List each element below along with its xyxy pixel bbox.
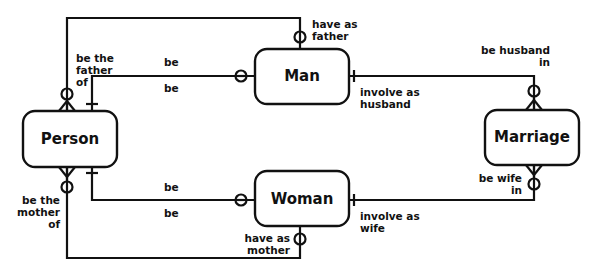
marriage-wife-crowsfoot-icon <box>526 165 542 190</box>
have-as-mother-label-line2: mother <box>247 244 291 256</box>
have-as-father-label-line2: father <box>312 30 349 42</box>
have-as-father-label-line1: have as <box>312 18 358 30</box>
entity-marriage[interactable]: Marriage <box>485 110 579 165</box>
involve-as-wife-label-line1: involve as <box>360 210 420 222</box>
man-father-optional-icon <box>295 31 306 43</box>
mother-of-label-line3: of <box>48 218 60 230</box>
person-father-crowsfoot-icon <box>59 88 75 111</box>
entity-person-label: Person <box>41 130 99 148</box>
father-of-label-line3: of <box>76 76 88 88</box>
er-diagram: Person Man Woman Marriage be the father … <box>0 0 600 274</box>
entity-person[interactable]: Person <box>23 111 117 167</box>
involve-as-wife-label-line2: wife <box>360 222 385 234</box>
involve-as-husband-label-line1: involve as <box>360 86 420 98</box>
father-of-label-line2: father <box>76 64 113 76</box>
mother-of-label-line1: be the <box>22 194 60 206</box>
woman-subtype-optional-icon <box>235 195 247 206</box>
be-husband-in-label-line1: be husband <box>481 44 550 56</box>
entity-marriage-label: Marriage <box>494 128 570 146</box>
person-man-be-label-top: be <box>164 56 179 68</box>
marriage-husband-crowsfoot-icon <box>526 85 542 110</box>
person-woman-be-label-bottom: be <box>164 207 179 219</box>
person-woman-be-label-top: be <box>164 181 179 193</box>
entity-woman[interactable]: Woman <box>255 171 349 226</box>
entity-man[interactable]: Man <box>255 49 349 104</box>
be-husband-in-label-line2: in <box>539 56 550 68</box>
person-man-be-label-bottom: be <box>164 82 179 94</box>
entity-woman-label: Woman <box>271 190 334 208</box>
father-of-label-line1: be the <box>76 52 114 64</box>
woman-mother-optional-icon <box>295 233 306 245</box>
person-mother-crowsfoot-icon <box>59 167 75 193</box>
be-wife-in-label-line2: in <box>511 184 522 196</box>
man-subtype-optional-icon <box>235 71 247 82</box>
be-wife-in-label-line1: be wife <box>479 172 522 184</box>
involve-as-husband-label-line2: husband <box>360 98 411 110</box>
mother-of-label-line2: mother <box>17 206 61 218</box>
have-as-mother-label-line1: have as <box>244 232 290 244</box>
entity-man-label: Man <box>284 67 320 85</box>
